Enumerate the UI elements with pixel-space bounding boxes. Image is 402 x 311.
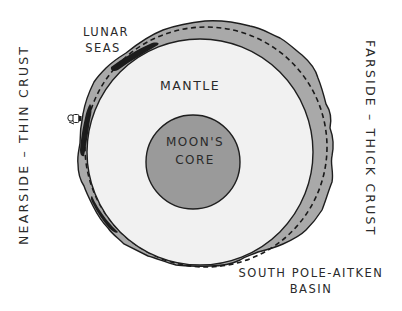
- lunar-seas-label: LUNAR SEAS: [76, 27, 136, 54]
- core-label-line2: CORE: [150, 154, 240, 166]
- lunar-seas-label-line2: SEAS: [70, 43, 136, 55]
- mantle-label: MANTLE: [160, 80, 220, 93]
- astronaut-icon: [68, 115, 82, 125]
- nearside-label: NEARSIDE – THIN CRUST: [18, 45, 31, 245]
- basin-label-line1: SOUTH POLE-AITKEN: [226, 268, 396, 280]
- basin-label-line2: BASIN: [226, 284, 396, 296]
- farside-label: FARSIDE – THICK CRUST: [364, 40, 377, 237]
- core-label: MOON'S CORE: [150, 136, 240, 166]
- lunar-seas-label-line1: LUNAR: [76, 27, 136, 39]
- south-pole-aitken-basin-label: SOUTH POLE-AITKEN BASIN: [226, 268, 396, 295]
- core-label-line1: MOON'S: [150, 136, 240, 148]
